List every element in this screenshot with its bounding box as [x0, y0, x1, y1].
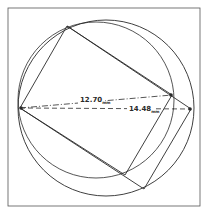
measure-long-line [20, 108, 191, 109]
vertex-left-marker [19, 106, 23, 110]
vertex-right-outer-marker [188, 107, 192, 111]
outer-rectangle [20, 26, 191, 189]
measure-long-label: 14.48mm [129, 105, 160, 114]
geometry-diagram: 12.70mm 14.48mm [0, 0, 205, 219]
vertex-right-inner-marker [169, 93, 173, 97]
diagram-frame [8, 8, 200, 206]
measure-short-label: 12.70mm [80, 96, 111, 105]
